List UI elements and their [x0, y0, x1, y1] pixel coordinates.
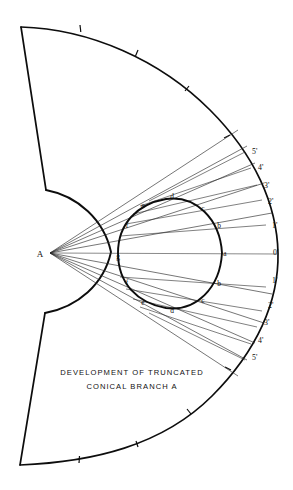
element-line-5-upper: [50, 130, 238, 253]
conical-branch-development-figure: g f e d c b a b c d e f 5' 4' 3' 2' 1' 0…: [0, 0, 293, 490]
outer-label-4-lower: 4': [258, 336, 264, 345]
curve-point-label-b-lower: b: [217, 279, 221, 288]
tick-mark: [136, 50, 139, 56]
chord-construction-lines: [120, 152, 266, 360]
outer-label-2-lower: 2': [268, 301, 274, 310]
chord-line-e-lower: [140, 307, 251, 344]
outer-label-5-upper: 5': [252, 147, 258, 156]
caption-line-2: CONICAL BRANCH A: [86, 382, 177, 391]
element-line-3-upper: [50, 163, 255, 253]
outer-label-5-lower: 5': [252, 353, 258, 362]
element-line-0: [50, 253, 278, 254]
curve-point-label-g: g: [116, 252, 120, 261]
outer-label-3-lower: 3': [264, 318, 270, 327]
outer-label-1-upper: 1': [272, 221, 278, 230]
lower-radial-edge: [20, 313, 45, 465]
sector-outline-group: [20, 27, 278, 465]
caption-line-1: DEVELOPMENT OF TRUNCATED: [60, 368, 203, 377]
element-line-5-lower: [50, 253, 238, 376]
outer-arc-tick-marks: [79, 25, 231, 463]
curve-point-label-e-lower: e: [141, 298, 145, 307]
chord-line-c-lower: [126, 289, 262, 311]
element-line-1-lower: [50, 253, 272, 294]
outer-label-4-upper: 4': [258, 163, 264, 172]
curve-point-label-b-upper: b: [217, 221, 221, 230]
curve-point-label-f-upper: f: [126, 221, 129, 230]
element-lines-group: [50, 130, 278, 376]
outer-label-2-upper: 2': [268, 197, 274, 206]
apex-label-a: A: [37, 249, 44, 259]
curve-point-label-d-lower: d: [170, 306, 174, 315]
outer-arc: [20, 27, 278, 465]
outer-arc-label-group: 5' 4' 3' 2' 1' 0' 1' 2' 3' 4' 5': [252, 147, 279, 362]
outer-label-1-lower: 1': [272, 276, 278, 285]
element-line-2-upper: [50, 183, 264, 253]
chord-line-f-lower: [149, 313, 245, 360]
development-drawing-canvas: g f e d c b a b c d e f 5' 4' 3' 2' 1' 0…: [0, 0, 293, 490]
element-line-4-lower: [50, 253, 247, 360]
tick-mark: [79, 456, 80, 463]
tick-mark: [187, 409, 191, 414]
outer-label-0: 0': [273, 248, 279, 257]
curve-point-label-d-upper: d: [170, 192, 174, 201]
chord-line-b-upper: [120, 225, 266, 236]
tick-mark: [80, 25, 81, 32]
element-line-4-upper: [50, 146, 247, 253]
caption-block: DEVELOPMENT OF TRUNCATED CONICAL BRANCH …: [60, 368, 203, 391]
outer-label-3-upper: 3': [264, 181, 270, 190]
upper-radial-edge: [21, 27, 46, 190]
chord-line-b-lower: [120, 277, 266, 287]
